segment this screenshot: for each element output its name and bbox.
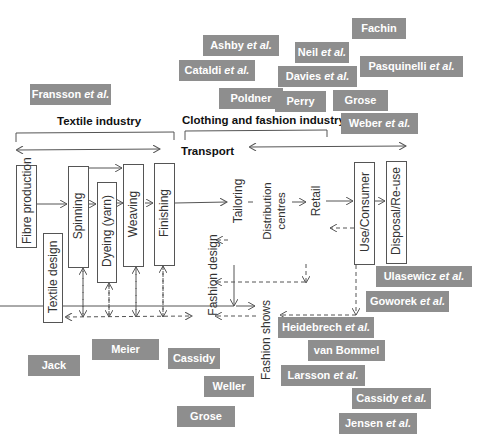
author-tag-pasquinelli: Pasquinelli et al. <box>360 56 463 77</box>
author-tag-van-bommel: van Bommel <box>308 340 385 361</box>
header-transport: Transport <box>181 145 234 157</box>
author-tag-heidebrech: Heidebrech et al. <box>278 317 374 338</box>
author-tag-grose-bottom: Grose <box>177 406 235 427</box>
header-clothing-fashion-industry: Clothing and fashion industry <box>182 114 345 126</box>
stage-textile-design-label: Textile design <box>46 235 60 319</box>
stage-spinning-label: Spinning <box>71 181 85 251</box>
author-tag-cataldi: Cataldi et al. <box>179 60 255 81</box>
stage-use-consumer-label: Use/Consumer <box>358 167 372 257</box>
stage-distribution-label: Distribution centres <box>260 173 288 249</box>
stage-fashion-design-label: Fashion design <box>206 230 220 320</box>
stage-disposal-reuse-label: Disposal/Re-use <box>389 166 403 256</box>
author-tag-ashby: Ashby et al. <box>203 35 279 56</box>
author-tag-ulasewicz: Ulasewicz et al. <box>376 266 472 287</box>
stage-fibre-production-label: Fibre production <box>20 162 34 244</box>
author-tag-grose-top: Grose <box>333 90 388 111</box>
author-tag-larsson: Larsson et al. <box>281 365 365 386</box>
author-tag-perry: Perry <box>275 91 326 112</box>
author-tag-fransson: Fransson et al. <box>30 84 111 105</box>
author-tag-jack: Jack <box>28 355 80 376</box>
author-tag-jensen: Jensen et al. <box>339 413 417 434</box>
author-tag-cassidy: Cassidy <box>168 348 220 369</box>
author-tag-cassidy-etal: Cassidy et al. <box>352 388 431 409</box>
stage-weaving-label: Weaving <box>126 179 140 249</box>
stage-retail-label: Retail <box>309 176 323 226</box>
stage-tailoring-label: Tailoring <box>231 171 245 231</box>
stage-finishing-label: Finishing <box>157 178 171 248</box>
author-tag-weller: Weller <box>204 376 254 397</box>
header-textile-industry: Textile industry <box>57 115 141 127</box>
author-tag-poldner: Poldner <box>219 88 283 109</box>
stage-fashion-shows-label: Fashion shows <box>259 298 273 382</box>
stage-dyeing-label: Dyeing (yarn) <box>100 186 114 276</box>
author-tag-fachin: Fachin <box>352 18 406 39</box>
author-tag-meier: Meier <box>92 339 159 360</box>
author-tag-davies: Davies et al. <box>278 66 357 87</box>
author-tag-goworek: Goworek et al. <box>366 291 449 312</box>
author-tag-weber: Weber et al. <box>341 113 418 134</box>
author-tag-neil: Neil et al. <box>295 42 349 63</box>
